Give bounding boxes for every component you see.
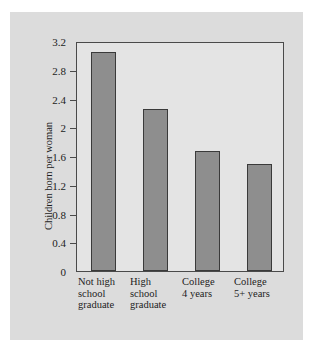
bar bbox=[247, 164, 272, 271]
y-axis-tick-label: 1.6 bbox=[24, 152, 66, 163]
x-axis-label-line: graduate bbox=[130, 299, 182, 311]
figure-card: Children born per woman 00.40.81.21.622.… bbox=[10, 12, 303, 340]
x-axis-label: College5+ years bbox=[234, 276, 286, 299]
x-axis-label-line: College bbox=[182, 276, 234, 288]
x-axis-label-line: 4 years bbox=[182, 288, 234, 300]
plot-area bbox=[76, 42, 284, 272]
x-axis-label-line: 5+ years bbox=[234, 288, 286, 300]
y-axis-tick-label: 0 bbox=[24, 267, 66, 278]
y-axis-tick-label: 2.4 bbox=[24, 94, 66, 105]
x-axis-label-line: school bbox=[130, 288, 182, 300]
x-axis-label-line: school bbox=[78, 288, 130, 300]
x-axis-label-line: High bbox=[130, 276, 182, 288]
bar bbox=[195, 151, 220, 271]
y-axis-tick-label: 0.4 bbox=[24, 238, 66, 249]
x-axis-label-line: College bbox=[234, 276, 286, 288]
y-axis-tick-label: 0.8 bbox=[24, 209, 66, 220]
x-axis-label: College4 years bbox=[182, 276, 234, 299]
x-axis-label-line: graduate bbox=[78, 299, 130, 311]
y-axis-tick-label: 2 bbox=[24, 123, 66, 134]
y-axis-tick-label: 3.2 bbox=[24, 37, 66, 48]
bar bbox=[91, 52, 116, 271]
x-axis-label-line: Not high bbox=[78, 276, 130, 288]
x-axis-label: Highschoolgraduate bbox=[130, 276, 182, 311]
y-axis-tick-label: 2.8 bbox=[24, 65, 66, 76]
y-axis-tick-label: 1.2 bbox=[24, 180, 66, 191]
x-axis-label: Not highschoolgraduate bbox=[78, 276, 130, 311]
bar bbox=[143, 109, 168, 271]
